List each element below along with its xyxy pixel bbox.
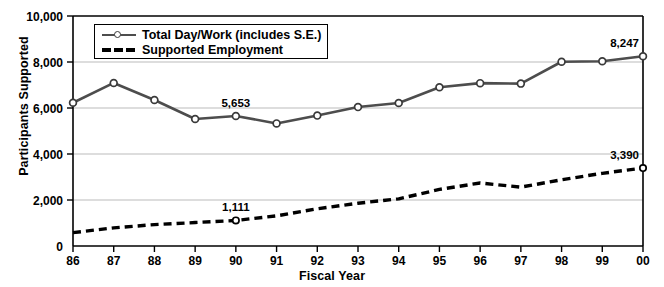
data-point-label: 3,390 xyxy=(610,149,639,161)
y-axis-tick-label: 2,000 xyxy=(33,194,63,208)
legend-item-total-day-work: Total Day/Work (includes S.E.) xyxy=(101,27,327,42)
data-point-marker xyxy=(436,84,443,91)
data-point-marker xyxy=(477,80,484,87)
legend-label-total-day-work: Total Day/Work (includes S.E.) xyxy=(142,28,321,42)
data-point-label: 5,653 xyxy=(221,97,250,109)
x-axis-title: Fiscal Year xyxy=(0,266,664,284)
data-point-marker xyxy=(599,58,606,65)
y-axis-title: Participants Supported xyxy=(14,21,32,191)
data-point-marker xyxy=(70,99,77,106)
data-point-marker xyxy=(395,100,402,107)
y-axis-tick-label: 8,000 xyxy=(33,56,63,70)
data-point-marker xyxy=(110,80,117,87)
legend-label-supported-employment: Supported Employment xyxy=(142,43,283,57)
data-point-marker xyxy=(558,58,565,65)
data-point-marker xyxy=(273,120,280,127)
data-point-marker xyxy=(151,97,158,104)
legend-key-dashed-line-icon xyxy=(101,43,137,57)
chart-container: 02,0004,0006,0008,00010,0008687888990919… xyxy=(0,0,664,287)
legend-item-supported-employment: Supported Employment xyxy=(101,42,327,57)
data-point-marker xyxy=(517,80,524,87)
data-point-marker xyxy=(192,116,199,123)
data-point-marker xyxy=(314,112,321,119)
data-point-marker xyxy=(355,104,362,111)
data-point-label: 1,111 xyxy=(222,201,250,213)
y-axis-tick-label: 0 xyxy=(56,240,63,254)
x-axis-title-text: Fiscal Year xyxy=(299,269,365,283)
data-point-label: 8,247 xyxy=(610,37,639,49)
y-axis-title-text: Participants Supported xyxy=(17,36,31,176)
data-point-marker xyxy=(232,113,239,120)
chart-legend: Total Day/Work (includes S.E.) Supported… xyxy=(94,24,328,59)
legend-key-solid-line-marker-icon xyxy=(101,28,137,42)
series-line-1 xyxy=(73,56,643,123)
data-point-marker xyxy=(640,165,646,171)
data-point-marker xyxy=(640,53,647,60)
data-point-marker xyxy=(233,217,239,223)
y-axis-tick-label: 6,000 xyxy=(33,102,63,116)
y-axis-tick-label: 4,000 xyxy=(33,148,63,162)
